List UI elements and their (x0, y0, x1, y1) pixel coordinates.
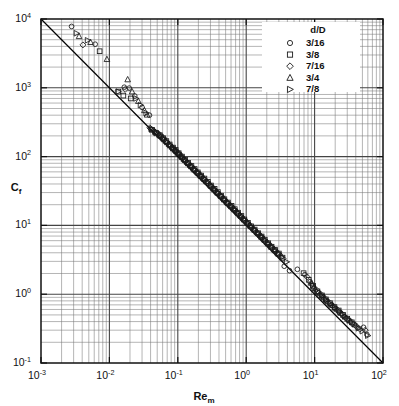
x-tick-label: 102 (371, 368, 387, 381)
y-axis-title-main: C (11, 181, 19, 193)
tick-mantissa: 10 (371, 369, 383, 381)
legend-entry-label: 7/8 (306, 83, 319, 94)
tick-exponent: -1 (176, 368, 182, 377)
data-marker-square (121, 93, 126, 98)
tick-mantissa: 10 (15, 218, 27, 230)
y-tick-label: 103 (15, 80, 31, 93)
tick-exponent: -1 (25, 355, 31, 364)
x-tick-label: 10-3 (28, 368, 46, 381)
data-marker-circle (69, 24, 74, 29)
data-marker-triangle-right (74, 30, 79, 36)
x-tick-label: 10-1 (165, 368, 183, 381)
figure-log-log-scatter-plot: 10-310-210-110010110210-1100101102103104… (0, 0, 399, 406)
tick-mantissa: 10 (303, 369, 315, 381)
x-tick-label: 101 (303, 368, 319, 381)
x-axis-title: Rem (193, 390, 214, 405)
data-marker-triangle-right (85, 38, 90, 44)
y-tick-label: 100 (15, 286, 31, 299)
data-marker-triangle-right (366, 333, 371, 339)
tick-exponent: 2 (383, 368, 387, 377)
x-axis-title-main: Re (193, 390, 207, 402)
legend-entry-label: 7/16 (306, 60, 325, 71)
data-marker-triangle-right (284, 259, 289, 265)
y-axis-title-sub: f (19, 187, 22, 196)
legend-entry-label: 3/4 (306, 72, 320, 83)
legend-entry-label: 3/16 (306, 37, 325, 48)
tick-mantissa: 10 (15, 287, 27, 299)
tick-mantissa: 10 (15, 81, 27, 93)
tick-mantissa: 10 (13, 356, 25, 368)
y-tick-label: 10-1 (13, 355, 31, 368)
legend-title: d/D (310, 24, 325, 35)
tick-mantissa: 10 (15, 12, 27, 24)
tick-exponent: 0 (246, 368, 250, 377)
legend: d/D3/163/87/163/47/8 (262, 22, 360, 94)
tick-exponent: -3 (40, 368, 46, 377)
x-axis-title-sub: m (207, 396, 214, 405)
data-marker-square (97, 49, 102, 54)
chart-svg: 10-310-210-110010110210-1100101102103104… (0, 0, 399, 406)
tick-exponent: -2 (108, 368, 114, 377)
tick-exponent: 4 (27, 11, 31, 20)
tick-mantissa: 10 (96, 369, 108, 381)
x-tick-labels: 10-310-210-1100101102 (28, 368, 387, 381)
x-tick-label: 100 (234, 368, 250, 381)
tick-mantissa: 10 (234, 369, 246, 381)
tick-mantissa: 10 (165, 369, 177, 381)
y-tick-label: 104 (15, 11, 31, 24)
tick-exponent: 0 (27, 286, 31, 295)
tick-mantissa: 10 (28, 369, 40, 381)
x-tick-label: 10-2 (96, 368, 114, 381)
y-tick-label: 102 (15, 148, 31, 161)
y-tick-label: 101 (15, 217, 31, 230)
legend-entry-label: 3/8 (306, 49, 319, 60)
data-marker-circle (295, 267, 300, 272)
tick-exponent: 1 (27, 217, 31, 226)
data-marker-triangle-up (125, 76, 131, 81)
tick-exponent: 1 (314, 368, 318, 377)
tick-mantissa: 10 (15, 150, 27, 162)
y-axis-title: Cf (11, 181, 22, 196)
tick-exponent: 2 (27, 148, 31, 157)
tick-exponent: 3 (27, 80, 31, 89)
